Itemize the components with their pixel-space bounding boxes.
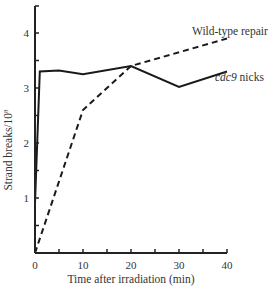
cdc9-rest: nicks bbox=[237, 71, 265, 83]
y-axis-label-text: Strand breaks/10 bbox=[2, 113, 14, 191]
tick-labels: 0102030401234 bbox=[24, 27, 234, 271]
x-tick-label: 40 bbox=[222, 259, 234, 271]
x-axis-label: Time after irradiation (min) bbox=[68, 273, 195, 286]
y-tick-label: 3 bbox=[24, 82, 30, 94]
cdc9-italic: cdc9 bbox=[215, 71, 237, 83]
y-axis-label-sup: 8 bbox=[2, 109, 10, 113]
axes bbox=[35, 6, 227, 253]
y-tick-label: 4 bbox=[24, 27, 30, 39]
line-chart: 0102030401234 Wild-type repair cdc9 nick… bbox=[0, 0, 271, 293]
x-tick-label: 20 bbox=[126, 259, 138, 271]
wild-type-label: Wild-type repair bbox=[192, 25, 268, 38]
x-tick-label: 30 bbox=[174, 259, 186, 271]
x-tick-label: 10 bbox=[78, 259, 90, 271]
x-tick-label: 0 bbox=[32, 259, 38, 271]
plot-lines bbox=[35, 39, 227, 254]
y-tick-label: 2 bbox=[24, 137, 30, 149]
cdc9-nicks-line bbox=[35, 66, 227, 204]
y-axis-label: Strand breaks/108 bbox=[2, 109, 14, 191]
cdc9-label: cdc9 nicks bbox=[215, 71, 264, 83]
y-tick-label: 1 bbox=[24, 192, 30, 204]
